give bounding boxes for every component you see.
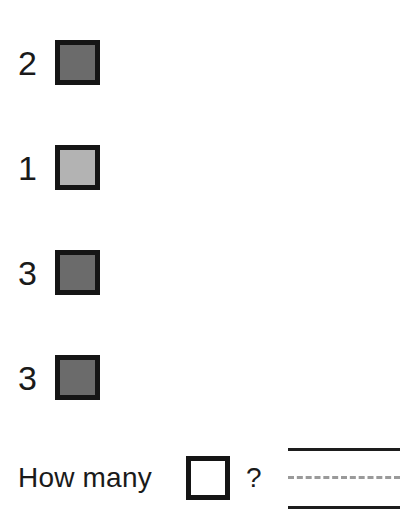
guide-line-top (288, 448, 400, 451)
question-mark: ? (246, 462, 262, 494)
question-text: How many (18, 462, 152, 494)
gray-square-swatch (55, 40, 100, 85)
gray-square-swatch (55, 355, 100, 400)
count-row: 1 (0, 115, 409, 220)
row-digit: 1 (18, 151, 48, 185)
light-gray-square-swatch (55, 145, 100, 190)
count-row: 2 (0, 10, 409, 115)
guide-line-bottom (288, 506, 400, 509)
empty-square-swatch (186, 456, 230, 500)
guide-line-middle-dashed (288, 476, 400, 479)
row-digit: 3 (18, 361, 48, 395)
row-digit: 2 (18, 46, 48, 80)
count-row: 3 (0, 325, 409, 430)
count-row: 3 (0, 220, 409, 325)
row-digit: 3 (18, 256, 48, 290)
counting-worksheet: 2 1 3 3 How many ? (0, 0, 409, 529)
gray-square-swatch (55, 250, 100, 295)
answer-guide-lines[interactable] (288, 444, 400, 512)
